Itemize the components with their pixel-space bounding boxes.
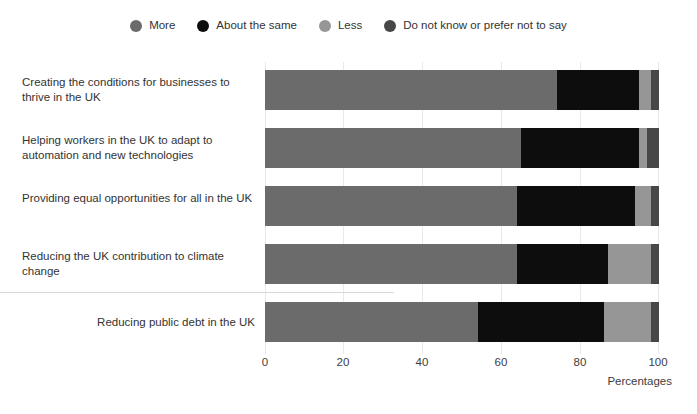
- bar-segment-less[interactable]: [635, 186, 651, 226]
- bar-segment-less[interactable]: [604, 302, 651, 342]
- bar-segment-less[interactable]: [608, 244, 651, 284]
- category-axis-labels: Creating the conditions for businesses t…: [22, 62, 255, 354]
- bar-row[interactable]: [265, 186, 659, 226]
- legend-label: More: [149, 20, 175, 32]
- bar-segment-do-not-know[interactable]: [651, 244, 659, 284]
- bar-segment-do-not-know[interactable]: [651, 302, 659, 342]
- bar-segment-less[interactable]: [639, 128, 647, 168]
- bar-segment-do-not-know[interactable]: [651, 70, 659, 110]
- circle-swatch-icon: [130, 20, 142, 32]
- bar-segment-more[interactable]: [265, 244, 517, 284]
- category-label: Helping workers in the UK to adapt to au…: [22, 133, 255, 163]
- legend-entry-more: More: [130, 20, 175, 32]
- legend-label: Do not know or prefer not to say: [403, 20, 567, 32]
- bar-segment-more[interactable]: [265, 128, 521, 168]
- chart-legend: More About the same Less Do not know or …: [0, 20, 697, 32]
- bar-segment-more[interactable]: [265, 302, 478, 342]
- bar-segment-do-not-know[interactable]: [647, 128, 659, 168]
- x-axis-line: [0, 292, 394, 293]
- legend-label: About the same: [216, 20, 297, 32]
- bar-row[interactable]: [265, 244, 659, 284]
- bar-segment-about-the-same[interactable]: [517, 186, 635, 226]
- x-axis-title: Percentages: [0, 375, 672, 387]
- category-label: Providing equal opportunities for all in…: [22, 191, 255, 206]
- x-tick-label: 20: [337, 356, 350, 368]
- x-tick-label: 60: [495, 356, 508, 368]
- chart-plot-area: [265, 62, 659, 354]
- category-label: Reducing public debt in the UK: [22, 315, 255, 330]
- legend-entry-about-the-same: About the same: [197, 20, 297, 32]
- legend-entry-less: Less: [319, 20, 362, 32]
- x-tick-label: 40: [416, 356, 429, 368]
- bar-segment-about-the-same[interactable]: [478, 302, 604, 342]
- bar-segment-about-the-same[interactable]: [557, 70, 640, 110]
- bar-segment-more[interactable]: [265, 70, 557, 110]
- legend-label: Less: [338, 20, 362, 32]
- bar-segment-about-the-same[interactable]: [521, 128, 639, 168]
- bar-segment-do-not-know[interactable]: [651, 186, 659, 226]
- x-tick-label: 80: [574, 356, 587, 368]
- category-label: Reducing the UK contribution to climate …: [22, 249, 255, 279]
- x-axis-ticks: 0 20 40 60 80 100: [265, 356, 659, 376]
- x-tick-label: 100: [648, 356, 667, 368]
- bar-segment-more[interactable]: [265, 186, 517, 226]
- circle-swatch-icon: [319, 20, 331, 32]
- circle-swatch-icon: [384, 20, 396, 32]
- bar-row[interactable]: [265, 128, 659, 168]
- bar-row[interactable]: [265, 70, 659, 110]
- circle-swatch-icon: [197, 20, 209, 32]
- legend-entry-do-not-know: Do not know or prefer not to say: [384, 20, 567, 32]
- bar-segment-less[interactable]: [639, 70, 651, 110]
- bar-segment-about-the-same[interactable]: [517, 244, 608, 284]
- bar-row[interactable]: [265, 302, 659, 342]
- x-tick-label: 0: [262, 356, 268, 368]
- category-label: Creating the conditions for businesses t…: [22, 75, 255, 105]
